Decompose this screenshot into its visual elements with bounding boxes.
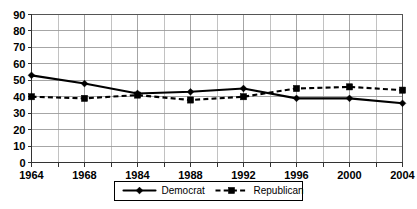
data-point-republican-1964 — [28, 94, 34, 100]
y-tick-label: 30 — [13, 107, 25, 119]
y-tick-label: 50 — [13, 74, 25, 86]
data-point-democrat-1988 — [187, 88, 194, 95]
data-point-democrat-1968 — [81, 80, 88, 87]
legend-label-republican: Republican — [254, 185, 304, 196]
data-point-republican-2000 — [346, 84, 352, 90]
y-tick-label: 10 — [13, 140, 25, 152]
data-point-republican-1992 — [240, 94, 246, 100]
data-point-democrat-1996 — [293, 95, 300, 102]
y-tick-label: 90 — [13, 9, 25, 21]
legend-marker-republican — [228, 187, 234, 193]
y-axis-tick-labels: 0102030405060708090 — [13, 9, 25, 169]
x-tick-label: 1968 — [72, 169, 96, 181]
x-tick-label: 1988 — [178, 169, 202, 181]
data-point-republican-1968 — [81, 95, 87, 101]
data-point-republican-1996 — [293, 85, 299, 91]
x-tick-label: 2000 — [337, 169, 361, 181]
data-point-democrat-2000 — [346, 95, 353, 102]
y-tick-label: 40 — [13, 91, 25, 103]
y-tick-label: 0 — [19, 157, 25, 169]
x-tick-label: 1992 — [231, 169, 255, 181]
data-point-republican-1984 — [134, 92, 140, 98]
x-tick-label: 1964 — [19, 169, 44, 181]
x-tick-label: 1984 — [125, 169, 150, 181]
y-tick-label: 60 — [13, 58, 25, 70]
data-point-democrat-1992 — [240, 85, 247, 92]
x-tick-label: 2004 — [390, 169, 415, 181]
y-tick-label: 80 — [13, 25, 25, 37]
x-tick-label: 1996 — [284, 169, 308, 181]
x-axis-tick-labels: 19641968198419881992199620002004 — [19, 169, 415, 181]
legend-label-democrat: Democrat — [162, 185, 206, 196]
y-tick-label: 70 — [13, 41, 25, 53]
data-point-republican-2004 — [399, 87, 405, 93]
data-point-democrat-1964 — [28, 72, 35, 79]
y-tick-label: 20 — [13, 124, 25, 136]
chart-canvas: 0102030405060708090 19641968198419881992… — [0, 0, 417, 209]
chart-legend: DemocratRepublican — [115, 181, 304, 200]
line-chart: 0102030405060708090 19641968198419881992… — [0, 0, 417, 209]
data-point-republican-1988 — [187, 97, 193, 103]
data-point-democrat-2004 — [399, 100, 406, 107]
